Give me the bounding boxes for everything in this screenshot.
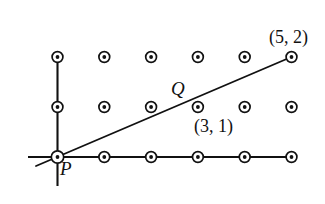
lattice-point-1-2	[99, 52, 110, 63]
lattice-point-4-0	[239, 152, 250, 163]
label-point-p: P	[60, 159, 72, 178]
lattice-row-y2	[52, 52, 297, 63]
lattice-point-5-1	[286, 102, 297, 113]
lattice-point-2-2	[146, 52, 157, 63]
lattice-point-5-2	[286, 52, 297, 63]
lattice-point-1-1	[99, 102, 110, 113]
lattice-point-3-1	[193, 102, 204, 113]
lattice-point-5-0	[286, 152, 297, 163]
ray-pq-line	[36, 55, 296, 166]
lattice-point-1-0	[99, 152, 110, 163]
lattice-point-3-0	[193, 152, 204, 163]
lattice-point-figure: P Q (3, 1) (5, 2)	[0, 0, 325, 204]
lattice-point-0-2	[52, 52, 63, 63]
label-coordinates-endpoint: (5, 2)	[269, 28, 308, 46]
label-point-q: Q	[171, 79, 185, 98]
lattice-point-4-1	[239, 102, 250, 113]
lattice-point-4-2	[239, 52, 250, 63]
lattice-point-3-2	[193, 52, 204, 63]
lattice-point-2-1	[146, 102, 157, 113]
lattice-point-2-0	[146, 152, 157, 163]
lattice-point-0-1	[52, 102, 63, 113]
label-coordinates-q: (3, 1)	[194, 117, 233, 135]
